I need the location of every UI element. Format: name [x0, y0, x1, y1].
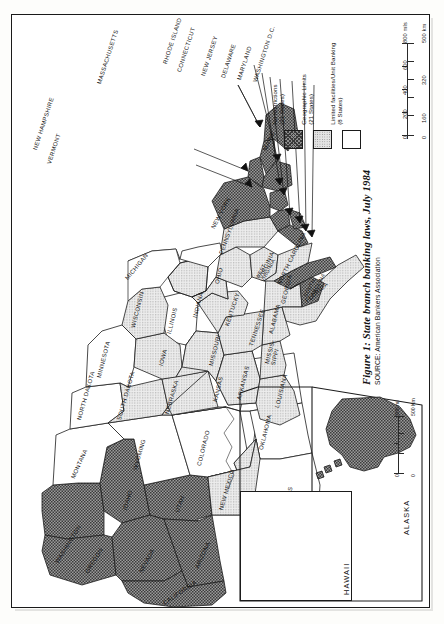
legend: No restrictions (21 States) Geographic L…	[284, 33, 372, 149]
inset-scale-miles-0: 0	[394, 474, 400, 477]
figure-plate: WASHINGTON OREGON IDAHO NEVADA UTAH ARIZ…	[11, 14, 430, 608]
hawaii-inset-label: HAWAII	[342, 563, 351, 595]
scale-tick-0: 0	[402, 136, 408, 139]
figure-caption: Figure 1: State branch banking laws, Jul…	[350, 163, 412, 393]
legend-text-3a: Limited facilities/Unit Banking	[329, 43, 336, 125]
legend-swatch-no-restrictions	[284, 130, 303, 149]
scale-km-unit: 500 km	[421, 23, 427, 43]
legend-text-2b: (21 States)	[308, 74, 315, 125]
scale-km-160: 160	[421, 113, 427, 123]
scale-tick-200: 200	[402, 109, 408, 119]
scale-miles-unit: 800 mls	[402, 22, 408, 43]
legend-label-limited-facilities: Limited facilities/Unit Banking (8 State…	[329, 43, 344, 125]
scale-tick-400: 400	[402, 85, 408, 95]
legend-text-3b: (8 States)	[337, 43, 344, 125]
hawaii-inset-box	[240, 491, 352, 601]
legend-text-1b: (21 States)	[279, 85, 286, 125]
scale-tick-600: 600	[402, 60, 408, 70]
legend-text-2a: Geographic Limits	[300, 74, 307, 125]
legend-label-geographic-limits: Geographic Limits (21 States)	[300, 74, 315, 125]
legend-swatch-limited-facilities	[342, 130, 361, 149]
legend-swatch-geographic-limits	[313, 130, 332, 149]
inset-scale-km-0: 0	[410, 474, 416, 477]
legend-label-no-restrictions: No restrictions (21 States)	[271, 85, 286, 125]
inset-scale-km-unit: 500 Km	[410, 398, 416, 416]
alaska-inset-label: ALASKA	[402, 500, 411, 535]
inset-scale-bar: 300 mi 0 500 Km 0	[384, 413, 418, 479]
legend-text-1a: No restrictions	[271, 85, 278, 125]
scale-km-320: 320	[421, 75, 427, 85]
figure-source: SOURCE: American Bankers Association	[374, 257, 381, 385]
scale-bar: 800 mls 600 400 200 0 500 km 320 160 0	[388, 39, 428, 143]
inset-scale-miles-unit: 300 mi	[394, 400, 400, 416]
scale-km-0: 0	[421, 136, 427, 139]
figure-title: Figure 1: State branch banking laws, Jul…	[361, 170, 372, 385]
